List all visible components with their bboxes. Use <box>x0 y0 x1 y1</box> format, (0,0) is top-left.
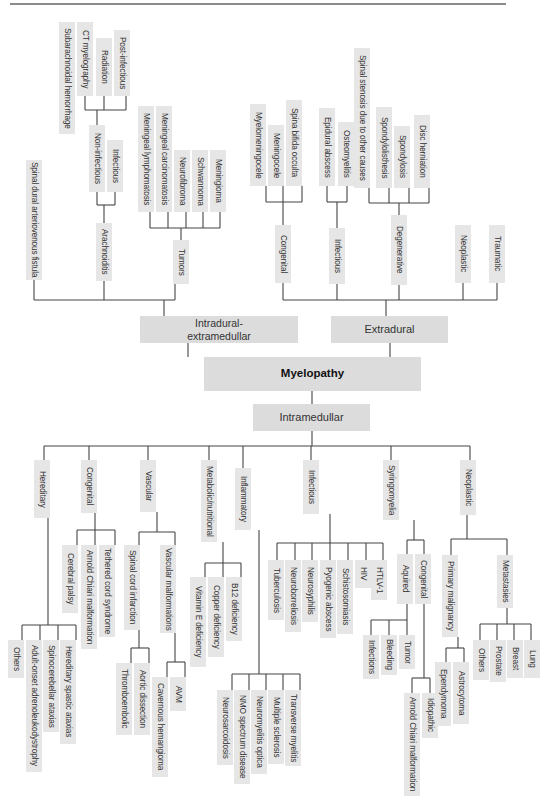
node-vite[interactable]: Vitamin E deficiency <box>190 577 206 667</box>
node-tumors[interactable]: Tumors <box>173 240 189 284</box>
node-schisto[interactable]: Schistosomiasis <box>337 560 353 634</box>
node-tb[interactable]: Tuberculosis <box>268 560 284 620</box>
node-thrombo[interactable]: Thromboembolic <box>116 663 132 735</box>
node-primary[interactable]: Primary malignancy <box>442 555 458 637</box>
node-label: Non-infectious <box>93 133 101 184</box>
node-metab[interactable]: Metabolic/nutritional <box>201 460 217 542</box>
node-myelomen[interactable]: Myelomeningocele <box>250 104 266 186</box>
node-astro[interactable]: Astrocytoma <box>453 662 469 724</box>
node-bleeding[interactable]: Bleeding <box>381 635 397 675</box>
node-epidural[interactable]: Epidural abscess <box>319 108 335 186</box>
node-hiv[interactable]: HIV <box>355 560 371 588</box>
node-neurobor[interactable]: Neuroborreliosis <box>285 560 301 632</box>
node-b12[interactable]: B12 deficiency <box>226 577 242 641</box>
node-label: Hereditary <box>38 471 46 508</box>
node-cpalsy[interactable]: Cerebral palsy <box>62 545 78 613</box>
extradural-node[interactable]: Extradural <box>331 316 448 343</box>
node-copper[interactable]: Copper deficiency <box>208 577 224 657</box>
node-infectious_e[interactable]: Infectious <box>329 228 345 284</box>
intramedullar-node[interactable]: Intramedullar <box>253 404 370 431</box>
node-label: Metabolic/nutritional <box>205 466 213 537</box>
node-label: Neoplastic <box>464 469 472 506</box>
node-ctmye[interactable]: CT myelography <box>77 22 93 96</box>
node-ms[interactable]: Multiple sclerosis <box>268 690 284 764</box>
node-spondylosis[interactable]: Spondylosis <box>394 126 410 188</box>
node-radiation[interactable]: Radiation <box>96 38 112 96</box>
node-degen[interactable]: Degenerative <box>391 215 407 285</box>
node-hereditary[interactable]: Hereditary <box>34 460 50 518</box>
node-schwann[interactable]: Schwannoma <box>192 150 208 212</box>
node-prostate[interactable]: Prostate <box>490 640 506 682</box>
node-aald[interactable]: Adult-onset adrenoleukodystrophy <box>26 640 42 772</box>
node-label: Metastasies <box>501 560 509 603</box>
node-label: Inflammatory <box>239 476 247 522</box>
node-sca[interactable]: Spinocerebellar ataxias <box>43 640 59 732</box>
node-label: Infectious <box>333 239 341 273</box>
node-infect_i[interactable]: Infectious <box>303 460 319 514</box>
node-breast[interactable]: Breast <box>507 640 523 678</box>
node-label: Meningocele <box>272 133 280 178</box>
node-mlymph[interactable]: Meningeal lymphomatosis <box>138 106 154 212</box>
node-vascular[interactable]: Vascular <box>140 460 156 512</box>
node-disc[interactable]: Disc herniation <box>414 115 430 188</box>
node-label: Others <box>12 647 20 671</box>
node-label: Neuromyelitis optica <box>255 696 263 768</box>
node-label: Adult-onset adrenoleukodystrophy <box>30 645 38 766</box>
node-neurofib[interactable]: Neurofibroma <box>174 150 190 212</box>
node-vmal[interactable]: Vascular malformations <box>160 545 176 633</box>
node-congenital_e[interactable]: Congenital <box>275 225 291 283</box>
node-label: Arnold Chiari malformation <box>408 697 416 791</box>
node-neoplastic_e[interactable]: Neoplastic <box>455 225 471 283</box>
node-postinf[interactable]: Post-infectious <box>114 30 130 96</box>
node-metast[interactable]: Metastasies <box>497 555 513 608</box>
node-nmosd[interactable]: NMO spectrum disease <box>234 690 250 784</box>
node-label: Breast <box>511 647 519 670</box>
node-meningocele[interactable]: Meningocele <box>268 125 284 186</box>
node-mcarc[interactable]: Meningeal carcinomatosis <box>156 106 172 212</box>
node-avm[interactable]: AVM <box>170 677 186 711</box>
node-tm[interactable]: Transverse myelitis <box>285 690 301 766</box>
node-others_m[interactable]: Others <box>473 640 489 680</box>
node-traumatic[interactable]: Traumatic <box>489 225 505 283</box>
node-congenital_i[interactable]: Congenital <box>81 460 97 513</box>
node-label: Tethered cord syndrome <box>103 548 111 634</box>
node-stenosis[interactable]: Spinal stenosis due to other causes <box>354 48 370 188</box>
node-tethered[interactable]: Tethered cord syndrome <box>99 545 115 637</box>
node-subarach[interactable]: Subarachnoidal hemorrhage <box>59 22 75 134</box>
node-acm1[interactable]: Arnold Chiari malformation <box>81 545 97 649</box>
node-acm2[interactable]: Arnold Chiari malformation <box>404 693 420 796</box>
node-sdavf[interactable]: Spinal dural arteriovenous fistula <box>26 160 42 280</box>
node-neurosarc[interactable]: Neurosarcoidosis <box>217 690 233 765</box>
node-mening[interactable]: Meningioma <box>210 150 226 212</box>
node-infections_s[interactable]: Infections <box>363 635 379 679</box>
node-label: Radiation <box>100 50 108 84</box>
node-hosp[interactable]: Others <box>8 640 24 678</box>
node-infect_a[interactable]: Infectious <box>107 140 123 192</box>
node-spondylolis[interactable]: Spondylolisthesis <box>376 107 392 188</box>
node-pyogenic[interactable]: Pyogenic abscess <box>320 560 336 638</box>
intradural-extramedullar-node[interactable]: Intradural- extramedullar <box>140 316 298 343</box>
node-lung[interactable]: Lung <box>524 640 540 678</box>
node-aortic[interactable]: Aortic dissection <box>134 663 150 735</box>
node-syringo[interactable]: Syringomyelia <box>383 460 399 520</box>
node-arach[interactable]: Arachnoiditis <box>96 223 112 281</box>
node-noninf[interactable]: Non-infectious <box>89 125 105 192</box>
node-label: Congenital <box>85 467 93 505</box>
node-sbo[interactable]: Spina bifida occulta <box>286 100 302 186</box>
node-cavern[interactable]: Cavernous hemangioma <box>152 677 168 777</box>
node-htlv[interactable]: HTLV-1 <box>371 560 387 600</box>
node-osteo[interactable]: Osteomyelitis <box>338 122 354 186</box>
node-sci[interactable]: Spinal cord infarction <box>124 545 140 630</box>
node-neoplastic_i[interactable]: Neoplastic <box>460 460 476 515</box>
node-label: Cavernous hemangioma <box>156 683 164 770</box>
node-nmo[interactable]: Neuromyelitis optica <box>251 690 267 774</box>
node-hsp[interactable]: Hereditary spastic ataxias <box>60 640 76 744</box>
node-aquired[interactable]: Aquired <box>397 554 413 604</box>
node-congenital_s[interactable]: Congenital <box>415 554 431 604</box>
node-neurosyph[interactable]: Neurosyphilis <box>302 560 318 622</box>
node-label: Spinocerebellar ataxias <box>47 645 55 728</box>
node-inflam[interactable]: Inflammatory <box>235 468 251 530</box>
node-ependym[interactable]: Ependymoma <box>435 662 451 726</box>
node-tumor_s[interactable]: Tumor <box>399 635 415 669</box>
myelopathy-root-node[interactable]: Myelopathy <box>204 357 421 391</box>
